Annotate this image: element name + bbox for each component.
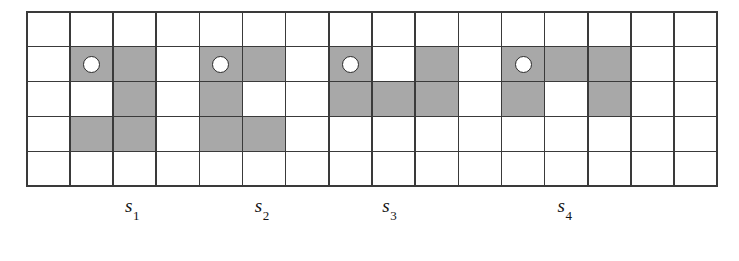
grid-cell	[200, 82, 242, 115]
sequence-label-s3: s3	[382, 196, 396, 219]
grid-cell	[545, 152, 587, 185]
label-base: s	[255, 195, 262, 216]
grid-cell	[675, 13, 717, 46]
grid-cell	[502, 152, 544, 185]
grid-cell	[330, 13, 372, 46]
grid-cell	[459, 13, 501, 46]
grid-cell	[632, 117, 674, 150]
grid-cell	[373, 13, 415, 46]
grid-cell	[416, 152, 458, 185]
grid-cell	[502, 82, 544, 115]
sequence-label-s1: s1	[125, 196, 139, 219]
grid-cell	[502, 47, 544, 80]
grid-cell	[71, 152, 113, 185]
grid-cell	[373, 47, 415, 80]
grid-container	[26, 11, 718, 187]
label-subscript: 2	[263, 208, 270, 223]
grid-cell	[502, 13, 544, 46]
grid-cell	[286, 82, 328, 115]
sequence-label-row: s1s2s3s4	[26, 196, 718, 236]
label-subscript: 1	[133, 208, 140, 223]
grid-cell	[114, 82, 156, 115]
grid-cell	[675, 82, 717, 115]
grid-cell	[286, 47, 328, 80]
grid-cell	[675, 152, 717, 185]
grid-cell	[28, 152, 70, 185]
grid-cell	[157, 152, 199, 185]
grid-cell	[459, 82, 501, 115]
grid-cell	[545, 117, 587, 150]
grid-cell	[71, 82, 113, 115]
grid-cell	[28, 47, 70, 80]
sequence-label-s4: s4	[558, 196, 572, 219]
label-subscript: 4	[565, 208, 572, 223]
grid-cell	[330, 117, 372, 150]
grid-cell	[157, 117, 199, 150]
grid-cell	[71, 13, 113, 46]
grid-cell	[589, 117, 631, 150]
grid-cell	[373, 117, 415, 150]
grid-cell	[200, 117, 242, 150]
grid-cell	[243, 82, 285, 115]
grid-cell	[330, 152, 372, 185]
grid-cell	[373, 82, 415, 115]
grid-cell	[545, 13, 587, 46]
grid-cell	[157, 47, 199, 80]
grid-cell	[589, 152, 631, 185]
grid-cell	[114, 47, 156, 80]
grid-cell	[243, 152, 285, 185]
grid-cell	[157, 82, 199, 115]
grid-cell	[416, 82, 458, 115]
grid-cell	[459, 152, 501, 185]
grid-cell	[632, 152, 674, 185]
grid-cell	[243, 47, 285, 80]
sequence-label-s2: s2	[255, 196, 269, 219]
grid-cell	[589, 47, 631, 80]
tile-pattern-figure: s1s2s3s4	[0, 0, 739, 261]
grid-cell	[114, 13, 156, 46]
grid-cell	[589, 82, 631, 115]
grid-cell	[373, 152, 415, 185]
grid-cell	[200, 152, 242, 185]
label-base: s	[558, 195, 565, 216]
circle-marker-icon	[212, 56, 229, 73]
circle-marker-icon	[515, 56, 532, 73]
grid-cell	[286, 117, 328, 150]
grid-cell	[28, 13, 70, 46]
circle-marker-icon	[83, 56, 100, 73]
grid-cell	[545, 82, 587, 115]
grid-cell	[632, 82, 674, 115]
label-base: s	[125, 195, 132, 216]
grid-cell	[459, 117, 501, 150]
grid-cell	[200, 47, 242, 80]
grid-cell	[675, 117, 717, 150]
circle-marker-icon	[342, 56, 359, 73]
grid-cell	[114, 152, 156, 185]
grid-cell	[286, 152, 328, 185]
grid-cell	[675, 47, 717, 80]
grid-cell	[416, 13, 458, 46]
grid-cell	[157, 13, 199, 46]
grid-cell	[459, 47, 501, 80]
grid-cell	[416, 117, 458, 150]
grid-cell	[286, 13, 328, 46]
grid-cell	[416, 47, 458, 80]
grid-cell	[71, 117, 113, 150]
grid-cell	[200, 13, 242, 46]
grid-cell	[243, 13, 285, 46]
grid-cell	[545, 47, 587, 80]
grid-cell	[71, 47, 113, 80]
label-base: s	[382, 195, 389, 216]
grid-cell	[632, 47, 674, 80]
grid-cell	[243, 117, 285, 150]
grid-cell	[330, 47, 372, 80]
grid-cell	[114, 117, 156, 150]
grid-cell	[330, 82, 372, 115]
label-subscript: 3	[390, 208, 397, 223]
grid-cell	[589, 13, 631, 46]
grid-cell	[28, 117, 70, 150]
tile-grid	[26, 11, 718, 187]
grid-cell	[28, 82, 70, 115]
grid-cell	[632, 13, 674, 46]
grid-cell	[502, 117, 544, 150]
